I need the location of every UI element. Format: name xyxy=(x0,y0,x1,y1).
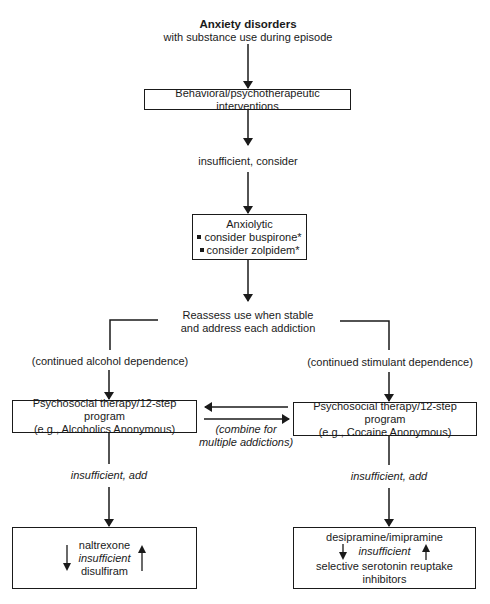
alcohol-therapy-box: Psychosocial therapy/12-step program (e.… xyxy=(12,400,197,433)
alcohol-insufficient-label: insufficient xyxy=(79,552,131,565)
anxiolytic-box: Anxiolytic consider buspirone* consider … xyxy=(192,214,307,260)
stimulant-therapy-line1: Psychosocial therapy/12-step program xyxy=(294,400,476,426)
behavioral-interventions-label: Behavioral/psychotherapeutic interventio… xyxy=(145,87,350,113)
naltrexone-label: naltrexone xyxy=(79,539,130,552)
stimulant-insufficient-label: insufficient xyxy=(359,545,411,558)
reassess-line1: Reassess use when stable xyxy=(168,309,328,322)
bullet-icon xyxy=(197,235,201,239)
alcohol-therapy-line2: (e.g., Alcoholics Anonymous) xyxy=(34,423,175,436)
stimulant-insufficient-row: insufficient xyxy=(339,544,431,560)
diagram-subtitle: with substance use during episode xyxy=(148,31,348,44)
diagram-title: Anxiety disorders xyxy=(148,18,348,31)
behavioral-interventions-box: Behavioral/psychotherapeutic interventio… xyxy=(144,89,351,110)
anxiolytic-item-zolpidem: consider zolpidem* xyxy=(200,244,300,257)
anxiolytic-title: Anxiolytic xyxy=(226,218,272,231)
right-branch-condition: (continued stimulant dependence) xyxy=(300,356,480,369)
stimulant-therapy-box: Psychosocial therapy/12-step program (e.… xyxy=(293,402,477,436)
disulfiram-label: disulfiram xyxy=(81,565,128,578)
alcohol-medication-sequence: naltrexone insufficient disulfiram xyxy=(63,539,147,578)
arrow-down-icon xyxy=(339,544,347,560)
reassess-line2: and address each addiction xyxy=(168,322,328,335)
stimulant-medication-box: desipramine/imipramine insufficient sele… xyxy=(293,527,476,589)
left-branch-condition: (continued alcohol dependence) xyxy=(20,355,200,368)
arrow-up-icon xyxy=(138,545,146,571)
ssri-label: selective serotonin reuptake inhibitors xyxy=(294,560,475,586)
anxiolytic-item-buspirone: consider buspirone* xyxy=(197,231,301,244)
arrow-up-icon xyxy=(422,544,430,560)
arrow-down-icon xyxy=(63,545,71,571)
stimulant-therapy-line2: (e.g., Cocaine Anonymous) xyxy=(319,426,452,439)
left-insufficient-add: insufficient, add xyxy=(49,469,169,482)
alcohol-medication-box: naltrexone insufficient disulfiram xyxy=(12,527,197,589)
alcohol-therapy-line1: Psychosocial therapy/12-step program xyxy=(13,397,196,423)
bullet-icon xyxy=(200,248,204,252)
right-insufficient-add: insufficient, add xyxy=(329,470,449,483)
insufficient-consider-label: insufficient, consider xyxy=(168,155,328,168)
combine-label-line2: multiple addictions) xyxy=(196,436,296,449)
combine-label-line1: (combine for xyxy=(196,423,296,436)
desipramine-label: desipramine/imipramine xyxy=(326,531,443,544)
